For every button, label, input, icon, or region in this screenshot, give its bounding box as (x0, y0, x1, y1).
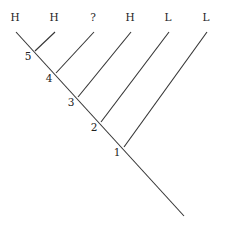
main-stem-line (16, 32, 184, 216)
tip-label: L (203, 11, 210, 23)
branch-line (35, 32, 55, 51)
node-number-label: 3 (68, 96, 75, 108)
branch-line (124, 32, 207, 147)
node-number-label: 5 (25, 50, 32, 62)
tip-labels: HH?HLL (10, 11, 209, 23)
tip-label: H (10, 11, 19, 23)
branch-line (78, 32, 131, 97)
node-number-label: 2 (91, 121, 98, 133)
node-labels: 54321 (25, 50, 121, 158)
tip-label: ? (90, 11, 96, 23)
tip-label: L (165, 11, 172, 23)
tip-label: H (49, 11, 58, 23)
branch-line (56, 32, 94, 73)
tip-label: H (125, 11, 134, 23)
branches (16, 32, 207, 216)
cladogram: HH?HLL 54321 (0, 0, 227, 230)
branch-line (101, 32, 169, 122)
node-number-label: 1 (114, 146, 121, 158)
node-number-label: 4 (46, 72, 53, 84)
